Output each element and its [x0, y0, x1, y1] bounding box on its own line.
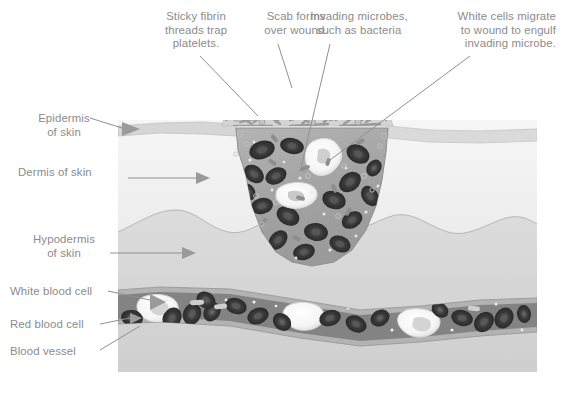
callout-sticky-fibrin: Sticky fibrin threads trap platelets. [146, 10, 246, 51]
leader-scab [278, 44, 292, 88]
callout-white-blood-cell: White blood cell [10, 285, 110, 299]
callout-dermis: Dermis of skin [18, 166, 128, 180]
callout-white-cells-migrate: White cells migrate to wound to engulf i… [428, 10, 556, 51]
fibrin-threads [226, 74, 390, 126]
scab-body [222, 69, 393, 126]
callout-epidermis: Epidermis of skin [18, 112, 110, 139]
callout-red-blood-cell: Red blood cell [10, 318, 110, 332]
skin-cross-section-panel [118, 69, 537, 372]
callout-blood-vessel: Blood vessel [10, 345, 110, 359]
scab-and-fibrin-mesh [222, 69, 393, 126]
wound-healing-figure: Sticky fibrin threads trap platelets. Sc… [0, 0, 562, 395]
wound-healing-illustration [0, 0, 562, 395]
platelet-group [233, 79, 385, 126]
callout-hypodermis: Hypodermis of skin [18, 233, 110, 260]
callout-invading-microbes: Invading microbes, such as bacteria [296, 10, 422, 37]
leader-fibrin [200, 56, 258, 116]
